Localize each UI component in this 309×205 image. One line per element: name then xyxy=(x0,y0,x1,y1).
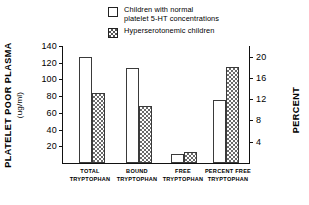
y-axis-right-title: PERCENT xyxy=(286,60,306,160)
y-axis-left-tick xyxy=(59,130,63,131)
y-axis-left-tick-label: 20 xyxy=(47,141,57,151)
y-axis-left-tick xyxy=(59,79,63,80)
y-axis-right-tick xyxy=(249,142,253,143)
y-axis-right-tick xyxy=(249,120,253,121)
dotted-square-swatch-icon xyxy=(108,28,118,38)
y-axis-left-tick xyxy=(59,113,63,114)
empty-square-swatch-icon xyxy=(108,7,118,17)
legend-item-hyperserotonemic: Hyperserotonemic children xyxy=(108,27,308,37)
y-axis-right-title-label: PERCENT xyxy=(291,87,301,134)
y-axis-left-tick-label: 100 xyxy=(41,74,57,84)
legend-item-normal: Children with normal platelet 5-HT conce… xyxy=(108,6,308,23)
y-axis-left-tick xyxy=(59,63,63,64)
bar-normal xyxy=(126,68,139,163)
plot-area: 2040608010012014048121620 xyxy=(62,46,250,164)
y-axis-right-tick-label: 12 xyxy=(256,94,266,104)
y-axis-left-tick xyxy=(59,96,63,97)
y-axis-left-title-main: PLATELET POOR PLASMA xyxy=(3,42,13,167)
bar-normal xyxy=(79,57,92,163)
y-axis-left-tick-label: 120 xyxy=(41,58,57,68)
y-axis-right-tick xyxy=(249,57,253,58)
y-axis-right-tick xyxy=(249,78,253,79)
y-axis-right-tick-label: 8 xyxy=(256,115,261,125)
y-axis-left-tick-label: 80 xyxy=(47,91,57,101)
y-axis-right-tick xyxy=(249,99,253,100)
y-axis-left-tick-label: 140 xyxy=(41,41,57,51)
bar-hyperserotonemic xyxy=(139,106,152,163)
y-axis-left-tick-label: 60 xyxy=(47,108,57,118)
y-axis-left-title: PLATELET POOR PLASMA (ug/ml) xyxy=(2,46,26,164)
legend-label: Children with normal platelet 5-HT conce… xyxy=(124,6,219,23)
y-axis-left-tick-label: 40 xyxy=(47,125,57,135)
bar-hyperserotonemic xyxy=(184,152,197,163)
x-category-label-percent-free: PERCENT FREE TRYPTOPHAN xyxy=(200,167,256,183)
y-axis-left-title-unit: (ug/ml) xyxy=(15,92,24,118)
chart-legend: Children with normal platelet 5-HT conce… xyxy=(108,6,308,41)
y-axis-right-tick-label: 16 xyxy=(256,73,266,83)
y-axis-left-tick xyxy=(59,146,63,147)
bar-hyperserotonemic xyxy=(92,93,105,163)
y-axis-right-tick-label: 4 xyxy=(256,137,261,147)
bar-normal xyxy=(213,100,226,163)
legend-label: Hyperserotonemic children xyxy=(124,27,214,36)
bar-hyperserotonemic xyxy=(226,67,239,163)
y-axis-right-tick-label: 20 xyxy=(256,52,266,62)
bar-normal xyxy=(171,154,184,163)
y-axis-left-tick xyxy=(59,46,63,47)
